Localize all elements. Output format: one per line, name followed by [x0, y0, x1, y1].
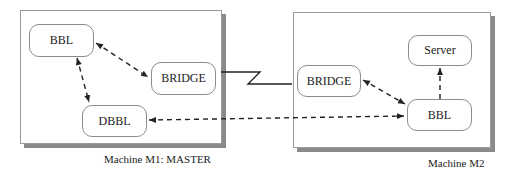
node-m1-bbl: BBL: [29, 24, 94, 57]
node-m2-bridge: BRIDGE: [297, 65, 361, 97]
machine-m1-caption: Machine M1: MASTER: [104, 153, 211, 165]
node-m2-server: Server: [408, 35, 472, 66]
node-m2-bbl: BBL: [407, 99, 472, 131]
link-m1-dbbl-m2-bbl: [149, 116, 404, 120]
link-m1-bbl-dbbl: [77, 58, 89, 102]
link-bridge-bridge-zigzag: [221, 72, 292, 84]
link-m1-bbl-bridge: [96, 43, 148, 77]
node-m1-bridge: BRIDGE: [151, 62, 216, 95]
machine-m2-caption: Machine M2: [428, 157, 485, 169]
node-m1-dbbl: DBBL: [82, 105, 147, 137]
link-m2-bridge-bbl: [363, 80, 405, 104]
